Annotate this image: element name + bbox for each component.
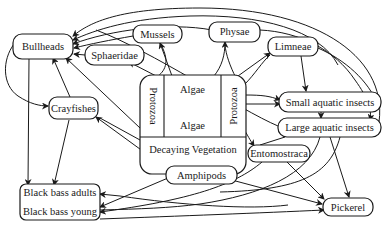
edge-algae-to-limneae [238, 53, 270, 76]
edge-algae-to-physae [214, 42, 225, 76]
node-sphaeridae[interactable]: Sphaeridae [85, 45, 144, 65]
node-label: Physae [220, 26, 250, 37]
node-label-black-bass-adults: Black bass adults [24, 187, 97, 198]
edge-decaying-to-crayfishes [96, 117, 144, 152]
node-small-aquatic-insects[interactable]: Small aquatic insects [279, 92, 381, 112]
node-label: Limneae [275, 41, 312, 52]
edge-algae-to-limneae-b [245, 55, 270, 84]
edge-large-insects-to-crayfishes [100, 118, 140, 140]
edge-crayfishes-to-bullheads [53, 58, 70, 97]
node-bullheads[interactable]: Bullheads [13, 34, 73, 59]
edge-large-insects-to-entomostraca [260, 137, 285, 145]
node-large-aquatic-insects[interactable]: Large aquatic insects [278, 118, 381, 137]
edge-algae-to-small-insects [245, 95, 280, 100]
edge-sphaeridae-to-bullheads [74, 54, 85, 55]
node-label-algae-top: Algae [180, 84, 205, 95]
node-label: Entomostraca [250, 148, 308, 159]
node-entomostraca[interactable]: Entomostraca [248, 145, 310, 162]
node-physae[interactable]: Physae [209, 22, 260, 42]
node-label: Large aquatic insects [285, 122, 373, 133]
edge-bullheads-to-black-bass [28, 59, 29, 185]
node-label-decaying-vegetation: Decaying Vegetation [149, 144, 237, 155]
node-label: Sphaeridae [91, 50, 138, 61]
node-label: Crayfishes [51, 103, 96, 114]
node-central-producers[interactable]: Algae Algae Protozoa Protozoa Decaying V… [140, 75, 246, 174]
edge-black-bass-to-pickerel [100, 210, 324, 219]
node-label: Bullheads [22, 41, 64, 52]
node-label-protozoa-right: Protozoa [228, 87, 239, 125]
node-black-bass[interactable]: Black bass adults Black bass young [20, 184, 100, 220]
edge-large-insects-to-pickerel [330, 137, 349, 197]
node-label: Amphipods [177, 170, 226, 181]
node-label: Mussels [140, 29, 174, 40]
node-label: Small aquatic insects [286, 97, 375, 108]
edge-algae-to-physae-b [225, 45, 236, 78]
food-web-diagram: Bullheads Mussels Physae Sphaeridae Limn… [0, 0, 383, 225]
node-label: Pickerel [331, 202, 365, 213]
edge-crayfishes-to-black-bass [54, 120, 69, 185]
edge-entomostraca-to-pickerel [287, 162, 324, 199]
edge-limneae-to-small-insects [301, 56, 306, 91]
node-mussels[interactable]: Mussels [133, 25, 182, 43]
node-pickerel[interactable]: Pickerel [323, 198, 373, 216]
node-label-algae-bottom: Algae [180, 120, 205, 131]
node-amphipods[interactable]: Amphipods [166, 166, 237, 184]
node-crayfishes[interactable]: Crayfishes [49, 97, 98, 119]
node-limneae[interactable]: Limneae [268, 37, 318, 56]
node-label-protozoa-left: Protozoa [148, 87, 159, 125]
node-label-black-bass-young: Black bass young [23, 206, 98, 217]
